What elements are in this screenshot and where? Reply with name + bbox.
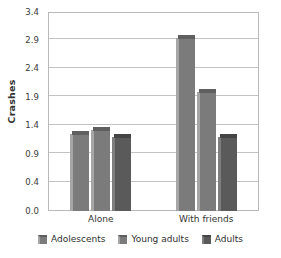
gridline [49, 38, 258, 39]
chart-legend: AdolescentsYoung adultsAdults [0, 234, 281, 244]
y-axis-tick-labels: 0.00.40.91.41.92.42.93.4 [0, 12, 44, 211]
x-axis-tick-label: Alone [88, 214, 113, 224]
plot-area [48, 12, 259, 211]
y-axis-tick-label: 1.9 [25, 93, 39, 102]
legend-item-young-adults[interactable]: Young adults [118, 234, 188, 244]
legend-item-adolescents[interactable]: Adolescents [38, 234, 105, 244]
y-axis-tick-label: 0.9 [25, 150, 39, 159]
y-axis-tick-label: 3.4 [25, 8, 39, 17]
gridline [49, 95, 258, 96]
y-axis-tick-label: 1.4 [25, 121, 39, 130]
legend-swatch-icon [118, 235, 127, 244]
y-axis-tick-label: 0.0 [25, 207, 39, 216]
legend-item-adults[interactable]: Adults [202, 234, 243, 244]
bar-chart: Crashes 0.00.40.91.41.92.42.93.4 AloneWi… [0, 0, 281, 258]
gridline [49, 181, 258, 182]
gridlines [49, 13, 258, 210]
gridline [49, 209, 258, 210]
y-axis-tick-label: 2.9 [25, 36, 39, 45]
legend-swatch-icon [38, 235, 47, 244]
legend-swatch-icon [202, 235, 211, 244]
x-axis-tick-labels: AloneWith friends [48, 214, 259, 230]
gridline [49, 152, 258, 153]
legend-label: Adults [215, 234, 243, 244]
legend-label: Young adults [131, 234, 188, 244]
x-axis-tick-label: With friends [179, 214, 233, 224]
gridline [49, 10, 258, 11]
y-axis-tick-label: 0.4 [25, 178, 39, 187]
gridline [49, 67, 258, 68]
y-axis-tick-label: 2.4 [25, 65, 39, 74]
gridline [49, 124, 258, 125]
legend-label: Adolescents [51, 234, 105, 244]
